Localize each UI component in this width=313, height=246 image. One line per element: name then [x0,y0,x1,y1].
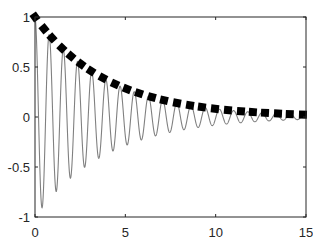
y-tick-label: 0 [23,110,30,125]
envelope-marker [110,79,121,90]
x-tick-label: 5 [122,225,129,240]
envelope-marker [65,51,76,62]
x-tick-label: 15 [299,225,313,240]
x-tick-label: 0 [31,225,38,240]
envelope-marker [38,23,49,34]
envelope-marker [197,103,206,112]
y-tick-label: 1 [23,10,30,25]
envelope-marker [237,107,246,116]
envelope-marker [286,110,294,118]
y-tick-label: 0.5 [12,60,30,75]
envelope-marker [147,92,157,102]
envelope-marker [249,108,258,117]
envelope-marker [261,109,269,117]
envelope-marker [85,65,96,76]
envelope-marker [185,101,194,110]
envelope-markers [29,11,307,118]
envelope-marker [75,59,86,70]
envelope-marker [274,109,282,117]
envelope-marker [122,84,132,94]
x-tick-label: 10 [208,225,222,240]
y-tick-label: -1 [18,210,30,225]
envelope-marker [56,42,67,53]
damped-oscillation-chart: 051015 -1-0.500.51 [0,0,313,246]
envelope-marker [172,98,181,107]
envelope-marker [211,104,220,113]
y-tick-label: -0.5 [8,160,30,175]
envelope-marker [224,106,233,115]
